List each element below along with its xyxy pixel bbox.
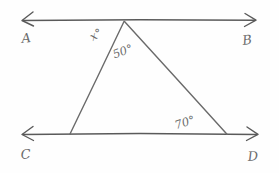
point-label-a: A [20,30,32,46]
geometry-diagram-canvas: x° 50° 70° A B C D [0,0,279,173]
angle-label-x: x° [87,25,105,43]
line-ab [23,20,255,21]
line-ab-group [22,12,256,27]
point-label-d: D [246,148,259,164]
line-cd [23,134,257,135]
geometry-figure: x° 50° 70° A B C D [0,0,279,173]
arrowhead-left-ab [22,12,34,26]
arrowhead-left-cd [22,127,34,141]
angle-label-70: 70° [173,112,197,132]
point-label-c: C [20,146,31,162]
point-label-b: B [240,32,253,48]
angle-label-50: 50° [111,41,135,61]
